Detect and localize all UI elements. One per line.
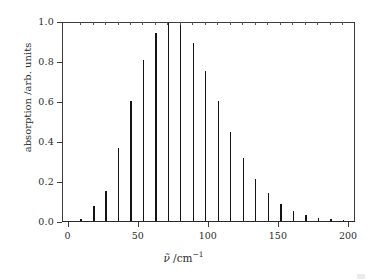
x-minor-tick [342,22,343,25]
x-minor-tick [130,22,131,25]
x-tick-mark [348,222,349,227]
x-minor-tick [255,22,256,25]
spectral-line [93,206,95,221]
x-tick-mark [68,222,69,227]
x-tick-mark [138,222,139,227]
spectral-line [118,148,119,221]
spectral-line [155,33,156,221]
spectral-line [193,43,194,221]
y-tick-label: 0.6 [38,96,54,107]
y-tick-mark [57,222,62,223]
x-tick-label: 50 [132,230,144,241]
x-minor-tick [167,22,168,25]
x-axis-label: ν̃ /cm−1 [0,250,367,264]
y-tick-label: 0.8 [38,56,54,67]
x-tick-label: 100 [199,230,217,241]
x-minor-tick [292,22,293,25]
x-minor-tick [93,22,94,25]
y-tick-label: 0.4 [38,136,54,147]
x-minor-tick [217,22,218,25]
absorption-spectrum-figure: absorption /arb. units 0.00.20.40.60.81.… [0,0,367,280]
spectral-line [130,101,131,221]
spectral-line [293,211,295,221]
x-minor-tick [267,22,268,25]
x-minor-tick [142,22,143,25]
spectral-line [105,191,107,221]
x-minor-tick [180,22,181,25]
x-minor-tick [280,22,281,25]
spectral-line [243,158,244,221]
x-minor-tick [242,22,243,25]
x-minor-tick [330,22,331,25]
x-tick-mark [278,222,279,227]
spectral-line [180,25,181,221]
spectral-line [255,179,256,221]
spectral-line [230,132,231,221]
nu-tilde-symbol: ν̃ [163,252,169,264]
spectral-line [268,193,270,221]
spectral-line [143,60,144,221]
plot-frame [62,22,355,222]
spectral-line [218,101,219,221]
y-tick-label: 0.2 [38,176,54,187]
x-minor-tick [118,22,119,25]
x-minor-tick [305,22,306,25]
x-minor-tick [80,22,81,25]
spectral-line [280,204,282,221]
exponent-minus-one: −1 [192,250,203,259]
spectral-line [205,71,206,221]
x-tick-label: 200 [339,230,357,241]
x-minor-tick [192,22,193,25]
y-axis-label: absorption /arb. units [22,3,33,193]
plot-area [63,23,354,221]
x-tick-label: 0 [65,230,71,241]
y-tick-label: 0.0 [38,216,54,227]
x-minor-tick [105,22,106,25]
x-tick-mark [208,222,209,227]
spectral-line [168,23,169,221]
x-minor-tick [317,22,318,25]
y-tick-label: 1.0 [38,16,54,27]
x-minor-tick [205,22,206,25]
x-minor-tick [230,22,231,25]
corner-artifact [357,274,365,279]
x-minor-tick [155,22,156,25]
x-tick-label: 150 [269,230,287,241]
